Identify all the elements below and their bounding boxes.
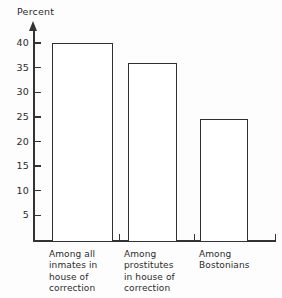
x-axis-category-label: Among all inmates in house of correction: [49, 249, 97, 295]
bar: [128, 63, 177, 241]
y-axis-tick: [34, 92, 41, 93]
x-axis-tick: [33, 234, 34, 241]
y-axis-tick-label: 35: [0, 62, 29, 73]
y-axis-tick-label: 40: [0, 37, 29, 48]
y-axis-tick-label: 25: [0, 111, 29, 122]
y-axis-tick: [34, 165, 41, 166]
y-axis-title: Percent: [17, 6, 54, 17]
x-axis-category-label: Among prostitutes in house of correction: [124, 249, 175, 295]
y-axis-tick: [34, 141, 41, 142]
x-axis-tick: [275, 234, 276, 241]
y-axis-tick-label: 10: [0, 185, 29, 196]
bar: [52, 43, 113, 241]
y-axis-tick-label: 15: [0, 160, 29, 171]
x-axis-category-label: Among Bostonians: [199, 249, 250, 272]
y-axis-tick-label: 5: [0, 209, 29, 220]
y-axis-tick: [34, 190, 41, 191]
bar: [200, 119, 248, 241]
bar-chart: Percent 403530252015105 Among all inmate…: [0, 0, 282, 298]
y-axis-tick: [34, 215, 41, 216]
y-axis-tick-label: 20: [0, 136, 29, 147]
y-axis-tick-label: 30: [0, 86, 29, 97]
y-axis-tick: [34, 116, 41, 117]
y-axis-line: [33, 29, 35, 241]
y-axis-tick: [34, 67, 41, 68]
x-axis-tick: [119, 234, 120, 241]
y-axis-tick: [34, 42, 41, 43]
x-axis-tick: [194, 234, 195, 241]
